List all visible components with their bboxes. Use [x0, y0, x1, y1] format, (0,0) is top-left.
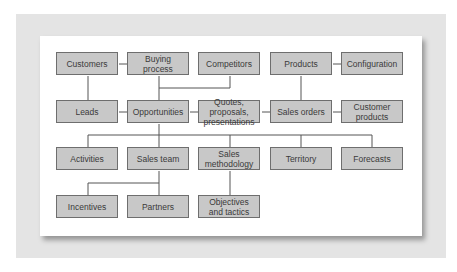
- node-leads: Leads: [56, 100, 118, 123]
- node-forecasts: Forecasts: [341, 147, 403, 170]
- node-customers: Customers: [56, 52, 118, 75]
- node-quotes: Quotes, proposals, presentations: [198, 100, 260, 123]
- node-buying-process: Buying process: [127, 52, 189, 75]
- node-activities: Activities: [56, 147, 118, 170]
- node-products: Products: [270, 52, 332, 75]
- node-sales-orders: Sales orders: [270, 100, 332, 123]
- node-territory: Territory: [270, 147, 332, 170]
- node-competitors: Competitors: [198, 52, 260, 75]
- node-partners: Partners: [127, 195, 189, 218]
- node-sales-team: Sales team: [127, 147, 189, 170]
- node-objectives: Objectives and tactics: [198, 195, 260, 218]
- node-sales-methodology: Sales methodology: [198, 147, 260, 170]
- node-customer-products: Customer products: [341, 100, 403, 123]
- connectors: [0, 0, 457, 272]
- node-opportunities: Opportunities: [127, 100, 189, 123]
- node-incentives: Incentives: [56, 195, 118, 218]
- node-configuration: Configuration: [341, 52, 403, 75]
